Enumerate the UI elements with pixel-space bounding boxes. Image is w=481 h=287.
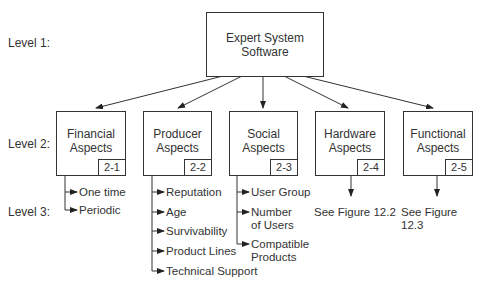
functional-reference: See Figure 12.3 bbox=[401, 206, 481, 232]
node-social: Social Aspects 2-3 bbox=[229, 111, 298, 176]
node-code: 2-5 bbox=[445, 159, 473, 176]
producer-child-survivability: Survivability bbox=[166, 225, 227, 238]
node-title: Functional Aspects bbox=[404, 127, 472, 155]
node-code: 2-2 bbox=[184, 159, 212, 176]
financial-child-one-time: One time bbox=[79, 186, 126, 199]
node-producer: Producer Aspects 2-2 bbox=[143, 111, 212, 176]
node-title: Hardware Aspects bbox=[316, 127, 384, 155]
financial-child-periodic: Periodic bbox=[79, 204, 121, 217]
producer-child-age: Age bbox=[166, 206, 186, 219]
producer-child-technical-support: Technical Support bbox=[166, 265, 257, 278]
social-child-user-group: User Group bbox=[251, 186, 310, 199]
node-hardware: Hardware Aspects 2-4 bbox=[315, 111, 385, 176]
node-title: Producer Aspects bbox=[144, 127, 211, 155]
producer-child-product-lines: Product Lines bbox=[166, 245, 236, 258]
node-financial: Financial Aspects 2-1 bbox=[56, 111, 126, 176]
node-title: Financial Aspects bbox=[57, 127, 125, 155]
root-node: Expert System Software bbox=[206, 12, 324, 77]
level-3-label: Level 3: bbox=[8, 205, 50, 219]
level-1-label: Level 1: bbox=[8, 36, 50, 50]
node-code: 2-1 bbox=[98, 159, 126, 176]
social-child-number-of-users: Number of Users bbox=[251, 206, 294, 232]
node-functional: Functional Aspects 2-5 bbox=[403, 111, 473, 176]
hardware-reference: See Figure 12.2 bbox=[314, 206, 396, 219]
social-child-compatible-products: Compatible Products bbox=[251, 238, 309, 264]
node-title: Social Aspects bbox=[230, 127, 297, 155]
root-title: Expert System Software bbox=[207, 31, 323, 59]
level-2-label: Level 2: bbox=[8, 137, 50, 151]
producer-child-reputation: Reputation bbox=[166, 186, 222, 199]
node-code: 2-4 bbox=[357, 159, 385, 176]
node-code: 2-3 bbox=[270, 159, 298, 176]
